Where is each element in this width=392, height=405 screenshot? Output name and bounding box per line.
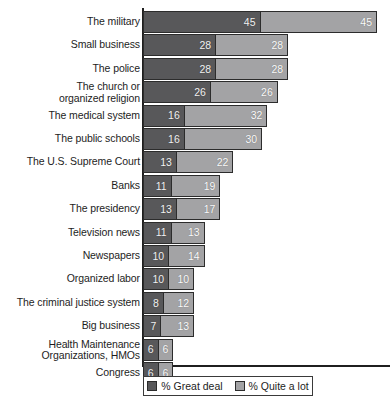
legend-label: % Great deal	[161, 381, 222, 392]
stacked-bar: 1119	[143, 175, 220, 197]
bar-segment-great-deal: 6	[143, 339, 159, 361]
bar-value-label: 13	[178, 321, 194, 332]
bar-value-label: 6	[148, 344, 158, 355]
category-label: The presidency	[0, 203, 140, 215]
stacked-bar: 2626	[143, 81, 278, 103]
bar-value-label: 6	[162, 344, 172, 355]
bar-segment-quite-a-lot: 26	[210, 81, 278, 103]
bar-segment-quite-a-lot: 17	[176, 198, 220, 220]
bar-segment-great-deal: 10	[143, 245, 169, 267]
bar-value-label: 26	[261, 87, 277, 98]
category-label: Big business	[0, 320, 140, 332]
bar-segment-quite-a-lot: 10	[168, 268, 194, 290]
category-label: Congress	[0, 367, 140, 379]
plot-area: The military4545Small business2828The po…	[0, 0, 392, 370]
bar-row: The police2828	[0, 58, 392, 80]
bar-value-label: 22	[217, 157, 233, 168]
bar-segment-great-deal: 16	[143, 128, 185, 150]
category-label: Banks	[0, 180, 140, 192]
category-label: The church or organized religion	[0, 81, 140, 104]
legend-item[interactable]: % Great deal	[147, 381, 222, 392]
stacked-bar: 812	[143, 292, 194, 314]
legend-item[interactable]: % Quite a lot	[235, 381, 309, 392]
bar-value-label: 11	[156, 227, 171, 238]
confidence-in-institutions-chart: The military4545Small business2828The po…	[0, 0, 392, 405]
bar-value-label: 30	[245, 134, 261, 145]
stacked-bar: 1010	[143, 268, 194, 290]
category-label: Health Maintenance Organizations, HMOs	[0, 338, 140, 361]
chart-legend: % Great deal% Quite a lot	[143, 376, 313, 396]
bar-segment-great-deal: 13	[143, 151, 177, 173]
bar-row: The public schools1630	[0, 128, 392, 150]
category-label: The medical system	[0, 110, 140, 122]
bar-segment-great-deal: 13	[143, 198, 177, 220]
bar-value-label: 12	[178, 298, 194, 309]
bar-value-label: 28	[199, 40, 215, 51]
bar-segment-great-deal: 10	[143, 268, 169, 290]
bar-row: Health Maintenance Organizations, HMOs66	[0, 339, 392, 361]
bar-value-label: 13	[160, 204, 176, 215]
bar-row: The medical system1632	[0, 105, 392, 127]
category-label: Small business	[0, 40, 140, 52]
bar-row: Big business713	[0, 315, 392, 337]
bar-value-label: 10	[178, 274, 194, 285]
bar-value-label: 13	[160, 157, 176, 168]
category-label: Newspapers	[0, 250, 140, 262]
stacked-bar: 4545	[143, 11, 377, 33]
category-label: The police	[0, 63, 140, 75]
bar-value-label: 45	[244, 17, 260, 28]
bar-segment-quite-a-lot: 28	[215, 34, 288, 56]
bar-value-label: 13	[188, 227, 204, 238]
stacked-bar: 1630	[143, 128, 262, 150]
bar-segment-quite-a-lot: 32	[184, 105, 268, 127]
bar-segment-quite-a-lot: 6	[158, 339, 174, 361]
bar-value-label: 11	[156, 181, 171, 192]
bar-segment-quite-a-lot: 12	[163, 292, 194, 314]
bar-value-label: 16	[168, 110, 184, 121]
bar-value-label: 28	[272, 40, 288, 51]
bar-segment-great-deal: 7	[143, 315, 161, 337]
bar-segment-quite-a-lot: 30	[184, 128, 262, 150]
bar-value-label: 28	[199, 64, 215, 75]
bar-segment-great-deal: 11	[143, 222, 172, 244]
bar-row: The church or organized religion2626	[0, 81, 392, 103]
bar-value-label: 14	[188, 251, 204, 262]
bar-value-label: 32	[251, 110, 267, 121]
bar-segment-quite-a-lot: 14	[168, 245, 205, 267]
bar-segment-great-deal: 45	[143, 11, 261, 33]
stacked-bar: 66	[143, 339, 173, 361]
bar-segment-great-deal: 16	[143, 105, 185, 127]
bar-segment-great-deal: 28	[143, 34, 216, 56]
bar-row: The military4545	[0, 11, 392, 33]
bar-row: Organized labor1010	[0, 268, 392, 290]
category-label: Organized labor	[0, 274, 140, 286]
stacked-bar: 1014	[143, 245, 205, 267]
bar-row: The presidency1317	[0, 198, 392, 220]
legend-swatch-icon	[235, 381, 245, 391]
bar-segment-great-deal: 11	[143, 175, 172, 197]
bar-value-label: 45	[360, 17, 376, 28]
bar-value-label: 7	[150, 321, 160, 332]
category-label: The criminal justice system	[0, 297, 140, 309]
bar-row: The criminal justice system812	[0, 292, 392, 314]
bar-value-label: 28	[272, 64, 288, 75]
bar-segment-quite-a-lot: 28	[215, 58, 288, 80]
bar-segment-quite-a-lot: 13	[160, 315, 194, 337]
bar-row: Newspapers1014	[0, 245, 392, 267]
stacked-bar: 1632	[143, 105, 267, 127]
bar-segment-quite-a-lot: 19	[171, 175, 221, 197]
bar-segment-great-deal: 26	[143, 81, 211, 103]
category-label: Television news	[0, 227, 140, 239]
bar-segment-great-deal: 8	[143, 292, 164, 314]
stacked-bar: 1317	[143, 198, 220, 220]
bar-row: Small business2828	[0, 34, 392, 56]
bar-value-label: 26	[194, 87, 210, 98]
bar-segment-great-deal: 28	[143, 58, 216, 80]
bar-value-label: 8	[153, 298, 163, 309]
category-label: The military	[0, 16, 140, 28]
bar-value-label: 16	[168, 134, 184, 145]
bar-segment-quite-a-lot: 22	[176, 151, 233, 173]
stacked-bar: 2828	[143, 34, 288, 56]
bar-row: Television news1113	[0, 222, 392, 244]
bar-value-label: 17	[204, 204, 220, 215]
